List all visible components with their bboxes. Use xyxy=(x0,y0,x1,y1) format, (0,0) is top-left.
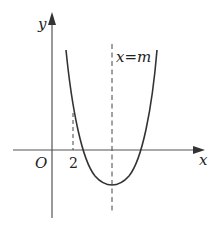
origin-label: O xyxy=(35,154,47,172)
y-axis-arrow-icon xyxy=(48,12,56,25)
x-axis-label: x xyxy=(199,151,208,169)
axis-of-symmetry-label: x=m xyxy=(116,48,151,66)
x-axis xyxy=(13,146,205,154)
y-axis-label: y xyxy=(37,15,47,33)
y-axis xyxy=(48,12,56,218)
tick-label-2: 2 xyxy=(69,155,78,171)
function-graph: y x O 2 x=m xyxy=(0,0,217,229)
